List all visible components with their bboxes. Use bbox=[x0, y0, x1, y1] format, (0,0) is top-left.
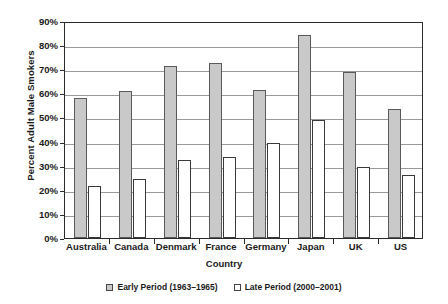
legend-label: Late Period (2000–2001) bbox=[245, 282, 342, 292]
y-axis-tick-label: 40% bbox=[18, 138, 58, 148]
legend-swatch-late bbox=[234, 284, 241, 291]
y-axis-tick-label: 50% bbox=[18, 113, 58, 123]
y-axis-tick-label: 70% bbox=[18, 65, 58, 75]
x-axis-category-label: US bbox=[378, 242, 423, 252]
legend-item: Late Period (2000–2001) bbox=[234, 282, 342, 292]
y-axis-tick-mark bbox=[60, 239, 64, 240]
legend-label: Early Period (1963–1965) bbox=[117, 282, 217, 292]
plot-area bbox=[64, 22, 423, 239]
x-axis-title: Country bbox=[0, 258, 448, 269]
x-axis-category-label: Germany bbox=[244, 242, 289, 252]
y-axis-tick-label: 80% bbox=[18, 41, 58, 51]
y-axis-tick-label: 90% bbox=[18, 17, 58, 27]
x-axis-category-label: Denmark bbox=[154, 242, 199, 252]
chart-figure: Percent Adult Male Smokers 0%10%20%30%40… bbox=[0, 0, 448, 304]
y-axis-tick-label: 60% bbox=[18, 89, 58, 99]
bar-group bbox=[65, 23, 424, 238]
legend-swatch-early bbox=[106, 284, 113, 291]
x-axis-category-label: Canada bbox=[109, 242, 154, 252]
y-axis-tick-label: 30% bbox=[18, 162, 58, 172]
y-axis-tick-label: 0% bbox=[18, 234, 58, 244]
chart-legend: Early Period (1963–1965)Late Period (200… bbox=[0, 282, 448, 292]
x-axis-category-label: UK bbox=[333, 242, 378, 252]
y-axis-tick-label: 20% bbox=[18, 186, 58, 196]
bar-late bbox=[402, 175, 415, 238]
x-axis-category-label: Australia bbox=[64, 242, 109, 252]
x-axis-category-label: Japan bbox=[288, 242, 333, 252]
bar-early bbox=[388, 109, 401, 238]
legend-item: Early Period (1963–1965) bbox=[106, 282, 217, 292]
y-axis-tick-label: 10% bbox=[18, 210, 58, 220]
x-axis-category-label: France bbox=[199, 242, 244, 252]
